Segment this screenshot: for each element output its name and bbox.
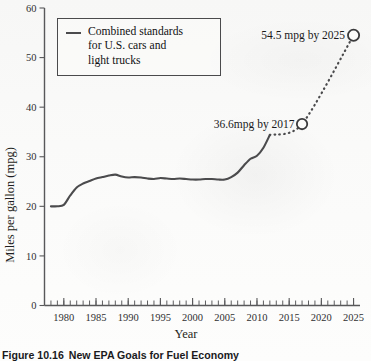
chart-legend: Combined standards for U.S. cars and lig… xyxy=(57,18,221,76)
x-axis-title: Year xyxy=(174,327,198,341)
x-tick-label: 1990 xyxy=(118,312,139,323)
annotation-2025-label: 54.5 mpg by 2025 xyxy=(261,29,345,42)
x-tick-label: 2015 xyxy=(279,312,300,323)
figure-caption-number: Figure 10.16 xyxy=(2,349,64,361)
data-marker-2017 xyxy=(297,119,307,129)
series-line-historic xyxy=(51,135,270,206)
chart-plot-region: 0102030405060 19801985199019952000200520… xyxy=(0,0,371,345)
legend-entry: Combined standards for U.S. cars and lig… xyxy=(66,25,213,68)
x-axis-tick-labels: 1980198519901995200020052010201520202025 xyxy=(53,312,364,323)
x-tick-label: 1985 xyxy=(86,312,107,323)
y-tick-label: 60 xyxy=(26,3,37,14)
legend-label: Combined standards for U.S. cars and lig… xyxy=(88,25,183,68)
x-tick-label: 2020 xyxy=(311,312,332,323)
y-tick-label: 30 xyxy=(26,151,37,162)
legend-line-swatch xyxy=(66,32,81,34)
y-tick-label: 50 xyxy=(26,52,37,63)
y-tick-label: 0 xyxy=(31,300,36,311)
x-axis-major-ticks xyxy=(64,298,354,306)
y-axis-ticks xyxy=(40,8,45,306)
x-tick-label: 2010 xyxy=(246,312,267,323)
y-axis-tick-labels: 0102030405060 xyxy=(26,3,37,312)
x-tick-label: 2025 xyxy=(343,312,364,323)
figure-caption: Figure 10.16New EPA Goals for Fuel Econo… xyxy=(2,349,239,361)
x-tick-label: 1980 xyxy=(53,312,74,323)
x-tick-label: 2000 xyxy=(182,312,203,323)
y-axis-title: Miles per gallon (mpg) xyxy=(3,147,17,263)
figure-container: 0102030405060 19801985199019952000200520… xyxy=(0,0,371,361)
y-tick-label: 20 xyxy=(26,201,37,212)
x-tick-label: 1995 xyxy=(150,312,171,323)
y-tick-label: 40 xyxy=(26,102,37,113)
figure-caption-title: New EPA Goals for Fuel Economy xyxy=(69,349,239,361)
y-tick-label: 10 xyxy=(26,251,37,262)
x-tick-label: 2005 xyxy=(214,312,235,323)
annotation-2017-label: 36.6mpg by 2017 xyxy=(214,118,295,131)
data-marker-2025 xyxy=(348,30,359,41)
